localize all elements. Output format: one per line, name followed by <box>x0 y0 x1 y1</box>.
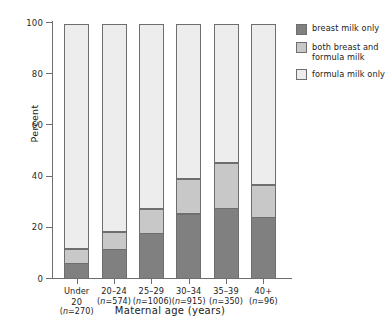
chart-figure: 020406080100 Percent Under 20(n=270)20–2… <box>0 0 386 327</box>
bar-segment[interactable] <box>176 214 201 279</box>
bar-segment[interactable] <box>214 163 239 209</box>
bar-segment[interactable] <box>102 24 127 233</box>
bar-segment[interactable] <box>251 185 276 218</box>
y-axis-tick: 80 <box>46 73 52 74</box>
bar-stack[interactable] <box>214 22 239 278</box>
bar-segment[interactable] <box>214 24 239 164</box>
y-axis-tick-label: 80 <box>32 69 43 79</box>
bar-segment[interactable] <box>102 249 127 278</box>
y-axis-line <box>52 21 53 279</box>
bar-stack[interactable] <box>251 22 276 278</box>
plot-area <box>58 22 282 278</box>
x-axis-category-label: 40+(n=96) <box>245 286 282 307</box>
x-axis-category-label: 25–29(n=1006) <box>133 286 170 307</box>
bar-segment[interactable] <box>214 208 239 278</box>
bar-segment[interactable] <box>64 249 89 264</box>
y-axis-tick-label: 40 <box>32 171 43 181</box>
x-axis-category-label: 20–24(n=574) <box>95 286 132 307</box>
bar-segment[interactable] <box>251 217 276 278</box>
x-axis-tick <box>114 279 115 284</box>
category-name: 20–24 <box>95 286 132 297</box>
bar-segment[interactable] <box>64 263 89 278</box>
bar-segment[interactable] <box>64 24 89 249</box>
x-axis-tick <box>226 279 227 284</box>
bar-stack[interactable] <box>139 22 164 278</box>
x-axis-tick <box>77 279 78 284</box>
y-axis-tick-label: 0 <box>37 274 43 284</box>
x-axis-tick <box>189 279 190 284</box>
bar-segment[interactable] <box>102 232 127 250</box>
y-axis-tick: 40 <box>46 176 52 177</box>
bar-segment[interactable] <box>139 24 164 210</box>
category-name: Under 20 <box>58 286 95 307</box>
x-axis-label: Maternal age (years) <box>58 305 282 316</box>
bar-segment[interactable] <box>139 233 164 279</box>
y-axis-tick-label: 100 <box>26 18 43 28</box>
legend-item[interactable]: formula milk only <box>296 69 386 81</box>
bar-segment[interactable] <box>176 179 201 215</box>
category-name: 25–29 <box>133 286 170 297</box>
y-axis-tick: 0 <box>46 278 52 279</box>
legend-label: breast milk only <box>312 23 379 33</box>
legend-item[interactable]: both breast and formula milk <box>296 42 386 62</box>
legend-swatch-icon <box>296 24 307 35</box>
y-axis-tick: 20 <box>46 227 52 228</box>
bar-segment[interactable] <box>251 24 276 185</box>
y-axis-tick-label: 20 <box>32 222 43 232</box>
legend-swatch-icon <box>296 69 307 80</box>
bar-stack[interactable] <box>102 22 127 278</box>
legend-label: formula milk only <box>312 69 385 79</box>
y-axis-label: Percent <box>29 84 40 164</box>
chart-legend: breast milk onlyboth breast and formula … <box>296 23 386 87</box>
y-axis-tick: 100 <box>46 22 52 23</box>
x-axis-category-label: 30–34(n=915) <box>170 286 207 307</box>
legend-label: both breast and formula milk <box>312 42 386 62</box>
legend-swatch-icon <box>296 42 307 53</box>
bar-stack[interactable] <box>64 22 89 278</box>
x-axis-tick <box>263 279 264 284</box>
y-axis-tick: 60 <box>46 124 52 125</box>
bar-segment[interactable] <box>139 209 164 233</box>
category-name: 40+ <box>245 286 282 297</box>
bar-stack[interactable] <box>176 22 201 278</box>
x-axis-category-label: 35–39(n=350) <box>207 286 244 307</box>
legend-item[interactable]: breast milk only <box>296 23 386 35</box>
category-name: 35–39 <box>207 286 244 297</box>
category-name: 30–34 <box>170 286 207 297</box>
x-axis-tick <box>151 279 152 284</box>
bar-segment[interactable] <box>176 24 201 179</box>
